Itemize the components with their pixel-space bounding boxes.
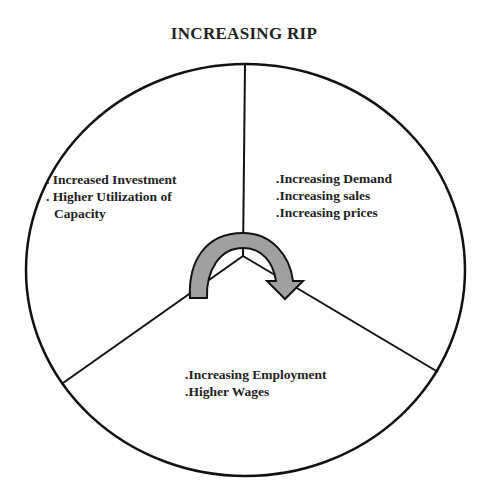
segment-line: Capacity bbox=[46, 205, 177, 222]
outer-circle bbox=[26, 64, 465, 476]
divider-top bbox=[243, 64, 245, 256]
divider-right bbox=[243, 256, 438, 372]
cycle-diagram bbox=[0, 0, 488, 498]
segment-line: .Increasing Employment bbox=[185, 366, 327, 383]
segment-employment: .Increasing Employment .Higher Wages bbox=[185, 366, 327, 400]
segment-line: .Increasing sales bbox=[276, 187, 392, 204]
segment-demand: .Increasing Demand .Increasing sales .In… bbox=[276, 170, 392, 221]
segment-line: .Higher Wages bbox=[185, 383, 327, 400]
segment-line: . Higher Utilization of bbox=[46, 188, 177, 205]
curved-clockwise-arrow-icon bbox=[190, 233, 303, 299]
divider-left bbox=[63, 256, 243, 383]
segment-line: .Increasing Demand bbox=[276, 170, 392, 187]
segment-line: . Increased Investment bbox=[46, 171, 177, 188]
segment-line: .Increasing prices bbox=[276, 204, 392, 221]
segment-investment: . Increased Investment . Higher Utilizat… bbox=[46, 171, 177, 222]
